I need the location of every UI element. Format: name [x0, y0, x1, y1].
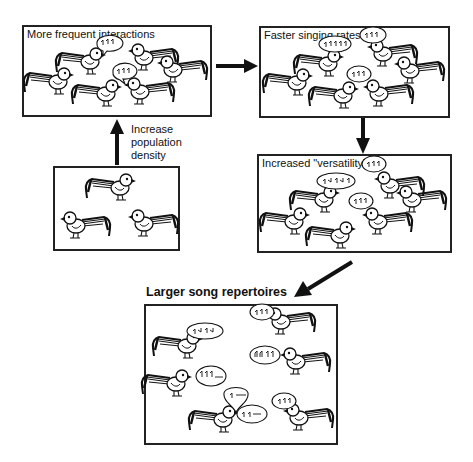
- box-increased-versatility: Increased "versatility": [257, 154, 452, 253]
- arrow-icon: [110, 119, 124, 165]
- box-title: More frequent interactions: [27, 28, 155, 40]
- arrow-icon: [216, 59, 258, 73]
- box-initial-population: [53, 166, 180, 251]
- arrow-icon: [356, 118, 370, 154]
- box-larger-song-repertoires: [144, 304, 338, 445]
- box-title: Increased "versatility": [262, 157, 367, 169]
- density-label-line: density: [131, 149, 182, 162]
- box-more-frequent-interactions: More frequent interactions: [22, 25, 212, 117]
- density-label: Increase population density: [131, 123, 182, 162]
- box-title: Faster singing rates: [264, 29, 361, 41]
- density-label-line: Increase: [131, 123, 182, 136]
- density-label-line: population: [131, 136, 182, 149]
- final-box-title: Larger song repertoires: [146, 285, 287, 299]
- arrow-icon: [294, 262, 352, 297]
- box-faster-singing-rates: Faster singing rates: [259, 26, 450, 118]
